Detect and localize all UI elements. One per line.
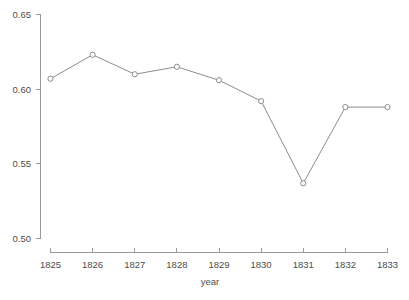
x-tick-label-4: 1829	[208, 259, 229, 270]
y-tick-label-1: 0.55	[13, 158, 32, 169]
line-chart: 0.50 0.55 0.60 0.65 1825 1826 1827 1828 …	[0, 0, 409, 300]
x-tick-label-2: 1827	[124, 259, 145, 270]
chart-container: 0.50 0.55 0.60 0.65 1825 1826 1827 1828 …	[0, 0, 409, 300]
x-tick-label-8: 1833	[377, 259, 398, 270]
data-point	[301, 181, 306, 186]
data-point	[343, 104, 348, 109]
data-series-group	[48, 52, 390, 186]
data-point	[48, 76, 53, 81]
x-axis: 1825 1826 1827 1828 1829 1830 1831 1832 …	[40, 248, 398, 288]
x-tick-label-5: 1830	[251, 259, 272, 270]
data-point	[132, 72, 137, 77]
data-point	[90, 52, 95, 57]
data-point	[385, 104, 390, 109]
x-tick-label-6: 1831	[293, 259, 314, 270]
x-tick-label-0: 1825	[40, 259, 61, 270]
y-tick-label-2: 0.60	[13, 84, 32, 95]
x-tick-label-7: 1832	[335, 259, 356, 270]
series-line-0	[51, 55, 388, 183]
data-point	[259, 99, 264, 104]
x-axis-title: year	[201, 276, 219, 287]
y-tick-label-3: 0.65	[13, 9, 32, 20]
data-point	[216, 78, 221, 83]
y-axis: 0.50 0.55 0.60 0.65	[13, 9, 41, 244]
data-point	[174, 64, 179, 69]
y-tick-label-0: 0.50	[13, 233, 32, 244]
x-tick-label-3: 1828	[166, 259, 187, 270]
x-tick-label-1: 1826	[82, 259, 103, 270]
